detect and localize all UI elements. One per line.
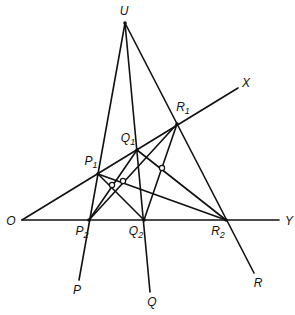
- line-Q1-R2: [137, 150, 226, 220]
- point-P2: [87, 218, 91, 222]
- label-P1: P1: [84, 155, 97, 171]
- line-O-X: [22, 88, 238, 220]
- label-U: U: [120, 5, 129, 17]
- point-Q1: [135, 148, 139, 152]
- label-Q1: Q1: [121, 132, 135, 148]
- label-R1: R1: [176, 101, 190, 117]
- label-R2: R2: [211, 225, 225, 241]
- point-Q2: [142, 218, 146, 222]
- label-P2: P2: [75, 225, 88, 241]
- point-U: [123, 21, 127, 25]
- label-Y: Y: [285, 215, 293, 227]
- line-U-P: [79, 23, 125, 280]
- intersection-marker-2: [120, 178, 125, 183]
- label-X: X: [242, 77, 250, 89]
- diagram-canvas: U O P1 Q1 R1 P2 Q2 R2 X Y P Q R: [0, 0, 295, 315]
- label-R: R: [254, 277, 263, 289]
- intersection-marker-1: [109, 182, 114, 187]
- point-P1: [96, 172, 100, 176]
- point-R2: [224, 218, 228, 222]
- label-Q: Q: [147, 296, 156, 308]
- geometry-figure: [0, 0, 295, 315]
- line-R1-Q2: [144, 124, 177, 220]
- intersection-marker-3: [159, 165, 164, 170]
- point-R1: [175, 122, 179, 126]
- label-P: P: [73, 284, 81, 296]
- label-O: O: [6, 215, 15, 227]
- construction-lines: [22, 23, 279, 292]
- label-Q2: Q2: [129, 225, 143, 241]
